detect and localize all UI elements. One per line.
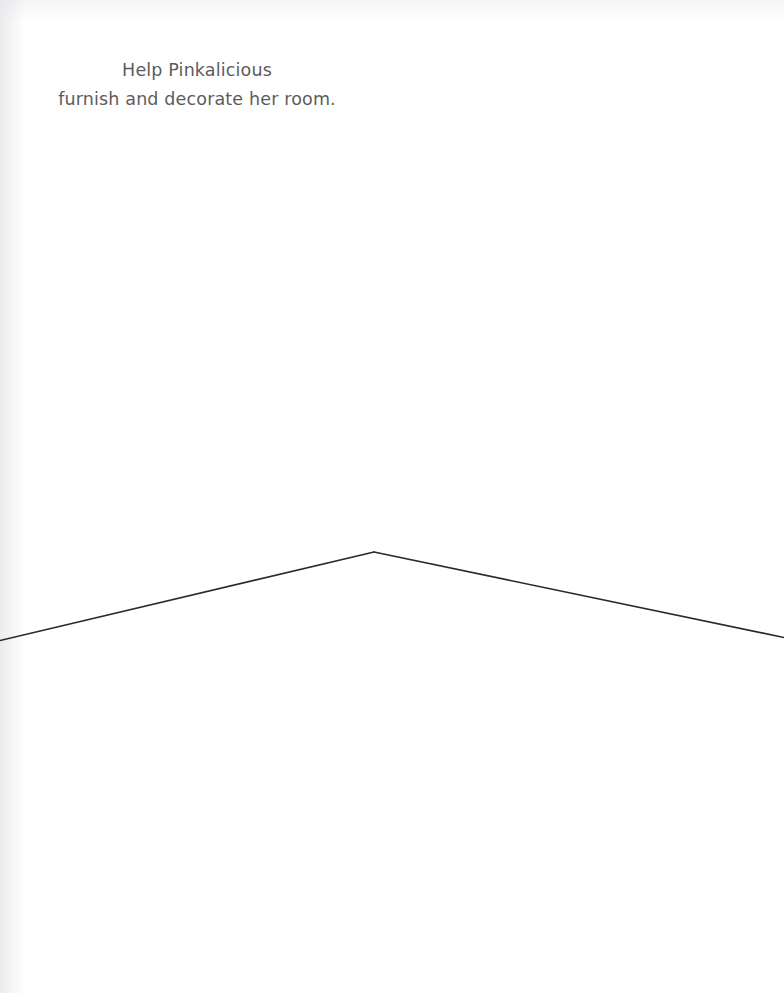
drawing-zone-right-wall[interactable] <box>374 0 784 552</box>
instruction-line-1: Help Pinkalicious <box>42 56 352 85</box>
activity-page: Help Pinkalicious furnish and decorate h… <box>0 0 784 993</box>
instruction-caption: Help Pinkalicious furnish and decorate h… <box>42 56 352 114</box>
drawing-zone-floor[interactable] <box>0 552 784 993</box>
instruction-line-2: furnish and decorate her room. <box>42 85 352 114</box>
